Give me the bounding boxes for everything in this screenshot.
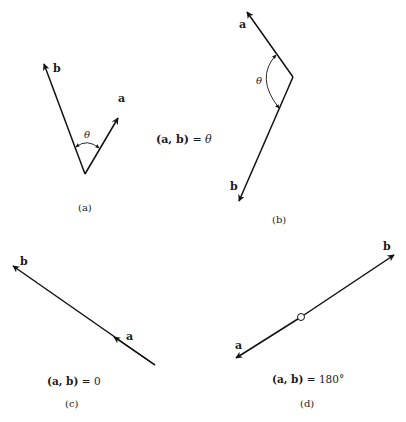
- vector-a-arrow: [85, 118, 118, 174]
- panel-b: a b θ (b): [230, 12, 293, 225]
- panel-d: b a (a, b) = 180° (d): [235, 240, 394, 409]
- panel-a: b a θ (a): [44, 62, 125, 213]
- caption-d: (d): [300, 398, 314, 409]
- label-b: b: [53, 62, 61, 75]
- label-a: a: [235, 339, 242, 352]
- angle-arc: [266, 55, 279, 108]
- equation-text: (a, b) = 180°: [272, 373, 344, 385]
- caption-c: (c): [65, 398, 79, 409]
- equation-eq: =: [78, 375, 93, 387]
- vector-a-arrow: [247, 12, 293, 77]
- label-b: b: [230, 180, 238, 193]
- equation-eq: =: [303, 373, 318, 385]
- equation-rhs: 0: [94, 375, 101, 387]
- angle-label-theta: θ: [256, 75, 262, 86]
- equation-eq: =: [189, 133, 205, 146]
- equation-text: (a, b) = 0: [47, 375, 101, 387]
- angle-arc: [76, 143, 99, 148]
- label-b: b: [383, 240, 391, 253]
- label-a: a: [126, 330, 133, 343]
- equation-lhs: (a, b): [47, 375, 78, 387]
- equation-rhs: θ: [205, 133, 212, 146]
- vector-b-arrow: [239, 77, 293, 201]
- equation-lhs: (a, b): [272, 373, 303, 385]
- caption-a: (a): [78, 202, 92, 213]
- label-b: b: [20, 255, 28, 268]
- panel-c: b a (a, b) = 0 (c): [13, 255, 155, 409]
- vector-a-arrow: [114, 337, 155, 365]
- origin-point: [298, 314, 305, 321]
- vector-b-arrow: [301, 255, 394, 317]
- vector-b-arrow: [44, 64, 85, 174]
- angle-label-theta: θ: [84, 129, 90, 140]
- equation-rhs: 180°: [319, 373, 344, 385]
- caption-b: (b): [272, 214, 286, 225]
- equation-lhs: (a, b): [156, 133, 189, 146]
- vector-a-arrow: [236, 317, 301, 358]
- vector-angle-diagram: b a θ (a) (a, b) = θ a b θ (b) b a (a, b…: [0, 0, 406, 422]
- label-a: a: [239, 18, 246, 31]
- middle-equation: (a, b) = θ: [156, 133, 212, 146]
- label-a: a: [118, 92, 125, 105]
- equation-text: (a, b) = θ: [156, 133, 212, 146]
